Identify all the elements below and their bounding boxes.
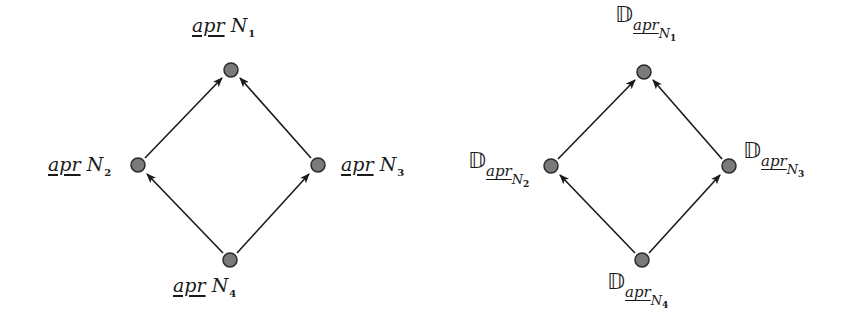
node-d-n3 — [722, 159, 736, 173]
var-text: N — [87, 153, 104, 175]
apr-text: apr — [625, 283, 651, 301]
subscript: N1 — [659, 26, 677, 41]
var-text: N — [231, 14, 248, 36]
double-struck-d-symbol: 𝔻 — [615, 2, 633, 27]
subscript: 3 — [397, 165, 404, 179]
apr-text: apr — [192, 14, 225, 36]
label-d-apr-n4: 𝔻aprN4 — [607, 271, 668, 293]
subscript: 2 — [104, 165, 111, 179]
label-apr-n2: apr N2 — [48, 155, 111, 174]
subscript: N2 — [512, 172, 530, 187]
double-struck-d-symbol: 𝔻 — [607, 269, 625, 294]
subscript-number: 3 — [798, 169, 804, 179]
subscript-number: 2 — [104, 167, 111, 178]
edge-d-n3-to-n1 — [653, 80, 722, 159]
apr-text: apr — [633, 16, 659, 34]
node-n4 — [223, 253, 237, 267]
double-struck-d-symbol: 𝔻 — [468, 148, 486, 173]
diagram-canvas — [0, 0, 850, 326]
edge-n3-to-n1 — [240, 78, 311, 158]
var-text: N — [380, 153, 397, 175]
edge-n2-to-n1 — [145, 78, 222, 158]
subscript-number: 2 — [523, 179, 529, 189]
apr-text: apr — [486, 162, 512, 180]
edge-n4-to-n3 — [237, 174, 309, 253]
left-lattice-nodes — [131, 63, 325, 267]
node-d-n4 — [635, 253, 649, 267]
right-lattice-nodes — [544, 65, 736, 267]
subscript-number: 4 — [229, 288, 236, 299]
edge-d-n4-to-n3 — [649, 175, 720, 253]
apr-text: apr — [341, 153, 374, 175]
subscript: 4 — [229, 286, 236, 300]
subscript: N4 — [651, 293, 669, 308]
label-apr-n4: apr N4 — [173, 276, 236, 295]
subscript: N3 — [787, 162, 805, 177]
apr-text: apr — [48, 153, 81, 175]
var-text: N — [512, 172, 523, 187]
node-n3 — [311, 158, 325, 172]
right-lattice-edges — [558, 80, 722, 253]
subscript-number: 1 — [248, 28, 255, 39]
label-d-apr-n2: 𝔻aprN2 — [468, 150, 529, 172]
label-apr-n1: apr N1 — [192, 16, 255, 35]
apr-text: apr — [761, 152, 787, 170]
node-n2 — [131, 158, 145, 172]
subscript-number: 1 — [670, 33, 676, 43]
label-d-apr-n3: 𝔻aprN3 — [743, 140, 804, 162]
var-text: N — [651, 293, 662, 308]
left-lattice-edges — [145, 78, 311, 253]
double-struck-d-symbol: 𝔻 — [743, 138, 761, 163]
edge-n4-to-n2 — [147, 174, 223, 253]
var-text: N — [212, 274, 229, 296]
node-d-n2 — [544, 159, 558, 173]
node-d-n1 — [637, 65, 651, 79]
apr-text: apr — [173, 274, 206, 296]
subscript-number: 3 — [397, 167, 404, 178]
edge-d-n2-to-n1 — [558, 80, 635, 159]
subscript: 1 — [248, 26, 255, 40]
edge-d-n4-to-n2 — [560, 175, 635, 253]
var-text: N — [659, 26, 670, 41]
node-n1 — [224, 63, 238, 77]
subscript-number: 4 — [662, 300, 668, 310]
var-text: N — [787, 162, 798, 177]
label-d-apr-n1: 𝔻aprN1 — [615, 4, 676, 26]
label-apr-n3: apr N3 — [341, 155, 404, 174]
